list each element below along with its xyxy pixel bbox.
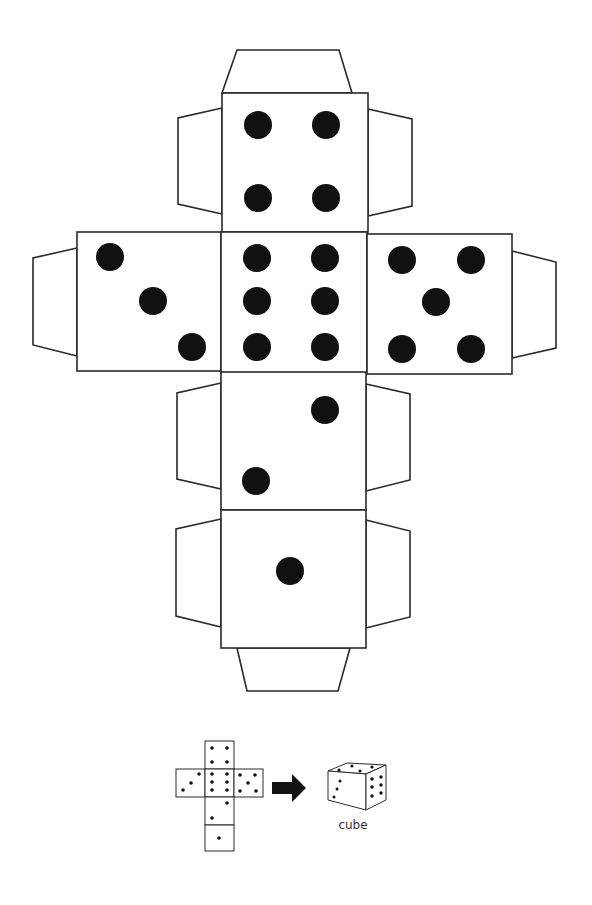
tab-bottom-left: [176, 519, 221, 627]
tab-top: [222, 50, 352, 93]
face-top: [222, 93, 368, 232]
cube-label: cube: [333, 818, 373, 832]
arrow-right-icon: [272, 774, 306, 802]
tab-lower-right: [366, 384, 410, 491]
tab-top-right: [368, 109, 412, 216]
tab-bottom: [237, 648, 350, 691]
mini-net-icon: [176, 741, 263, 851]
tab-top-left: [178, 108, 222, 214]
tab-right: [512, 251, 556, 358]
tab-lower-left: [177, 383, 221, 489]
face-center: [221, 232, 367, 373]
face-lower: [221, 372, 366, 510]
cube-icon: [328, 763, 386, 810]
tab-left: [33, 248, 77, 356]
tab-bottom-right: [366, 520, 410, 628]
dice-net-diagram: [0, 0, 592, 905]
